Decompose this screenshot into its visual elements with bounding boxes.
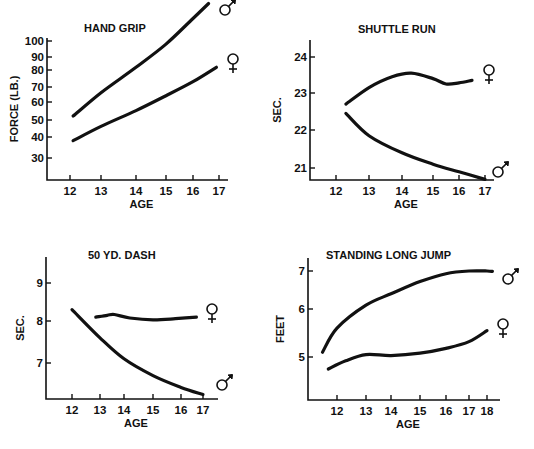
x-axis-label: AGE [124,417,148,429]
chart-hand-grip: HAND GRIP30405060708090100121314151617AG… [8,0,238,210]
y-tick-label: 7 [299,265,305,277]
female-symbol-icon [207,304,217,323]
x-tick-label: 16 [175,404,188,416]
series-line-female [328,331,487,369]
x-tick-label: 15 [427,185,440,197]
x-axis-label: AGE [394,198,418,210]
x-tick-label: 18 [481,405,494,417]
x-tick-label: 14 [130,185,143,197]
y-tick-label: 9 [37,277,43,289]
series-line-female [96,314,197,320]
y-tick-label: 50 [31,114,44,126]
y-axis-label: SEC. [271,97,283,123]
chart-fifty-yd-dash: 50 YD. DASH789121314151617AGESEC. [14,249,233,429]
series-line-male [346,113,485,179]
y-axis-label: FEET [274,315,286,343]
y-tick-label: 80 [31,64,44,76]
series-line-female [346,73,472,104]
axis-lines [46,257,218,399]
series-line-female [73,67,216,140]
y-tick-label: 24 [294,51,307,63]
y-tick-label: 60 [31,96,44,108]
x-tick-label: 17 [479,185,492,197]
y-tick-label: 90 [31,51,44,63]
x-axis-label: AGE [396,418,420,430]
y-axis-label: SEC. [14,315,26,341]
y-tick-label: 6 [299,303,305,315]
y-tick-label: 8 [37,315,44,327]
y-tick-label: 70 [31,81,44,93]
chart-title: SHUTTLE RUN [358,23,436,35]
x-tick-label: 17 [213,185,226,197]
male-symbol-icon [217,375,233,391]
chart-standing-long-jump: STANDING LONG JUMP56712131415161718AGEFE… [274,249,519,430]
x-tick-label: 13 [94,404,107,416]
x-tick-label: 13 [95,185,108,197]
y-tick-label: 40 [31,131,44,143]
x-tick-label: 13 [360,405,373,417]
x-tick-label: 12 [66,404,79,416]
chart-title: STANDING LONG JUMP [326,249,451,261]
chart-shuttle-run: SHUTTLE RUN21222324121314151617AGESEC. [271,23,509,210]
female-symbol-icon [228,54,238,73]
series-line-male [73,4,209,117]
x-tick-label: 12 [330,185,343,197]
female-symbol-icon [484,65,494,84]
x-tick-label: 17 [463,405,476,417]
figure-canvas: HAND GRIP30405060708090100121314151617AG… [0,0,534,449]
series-line-male [72,310,203,395]
chart-title: HAND GRIP [84,22,146,34]
x-axis-label: AGE [130,198,154,210]
axis-lines [310,40,494,180]
x-tick-label: 14 [118,404,131,416]
series-line-male [323,271,493,352]
y-axis-label: FORCE (LB.) [8,75,20,142]
female-symbol-icon [498,319,508,338]
x-tick-label: 16 [440,405,453,417]
x-tick-label: 15 [147,404,160,416]
x-tick-label: 17 [197,404,210,416]
male-symbol-icon [220,0,236,15]
y-tick-label: 23 [294,87,307,99]
male-symbol-icon [493,162,509,178]
x-tick-label: 14 [396,185,409,197]
x-tick-label: 13 [363,185,376,197]
x-tick-label: 15 [414,405,427,417]
chart-title: 50 YD. DASH [88,249,156,261]
x-tick-label: 12 [331,405,344,417]
male-symbol-icon [503,269,519,285]
x-tick-label: 16 [453,185,466,197]
figure-caption [10,440,524,449]
y-tick-label: 100 [25,35,44,47]
x-tick-label: 16 [187,185,200,197]
y-tick-label: 22 [294,124,307,136]
x-tick-label: 14 [385,405,398,417]
y-tick-label: 30 [31,152,44,164]
y-tick-label: 21 [294,162,307,174]
x-tick-label: 15 [160,185,173,197]
y-tick-label: 5 [299,351,306,363]
y-tick-label: 7 [37,357,43,369]
x-tick-label: 12 [64,185,77,197]
